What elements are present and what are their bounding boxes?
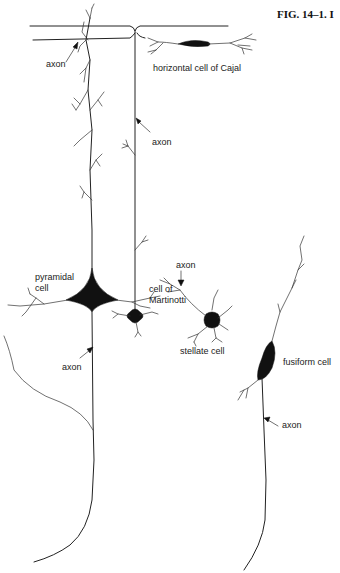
label-axon-fusiform: axon (282, 420, 302, 431)
label-horizontal-cell: horizontal cell of Cajal (153, 63, 241, 74)
horizontal-cell-of-cajal (148, 34, 256, 54)
cortical-surface-lines (30, 26, 228, 40)
figure-title: FIG. 14–1. I (277, 8, 334, 20)
label-pyramidal-line1: pyramidal (35, 272, 74, 283)
neuron-diagram: FIG. 14–1. I axon horizontal cell of Caj… (0, 0, 340, 573)
label-martinotti-line1: cell of (149, 284, 173, 295)
label-pyramidal-line2: cell (35, 283, 49, 294)
martinotti-axon (122, 31, 148, 312)
pyramidal-cell (8, 268, 160, 316)
label-axon-stellate: axon (176, 260, 196, 271)
pyramidal-axon (4, 312, 94, 562)
fusiform-cell (238, 236, 304, 570)
label-axon-pyramidal: axon (62, 362, 82, 373)
label-axon-top: axon (46, 59, 66, 70)
pointer-arrows (66, 42, 278, 426)
label-stellate-cell: stellate cell (180, 346, 225, 357)
label-axon-martinotti: axon (152, 137, 172, 148)
cell-of-martinotti (112, 309, 158, 337)
label-martinotti-line2: Martinotti (149, 295, 186, 306)
label-fusiform-cell: fusiform cell (283, 357, 331, 368)
